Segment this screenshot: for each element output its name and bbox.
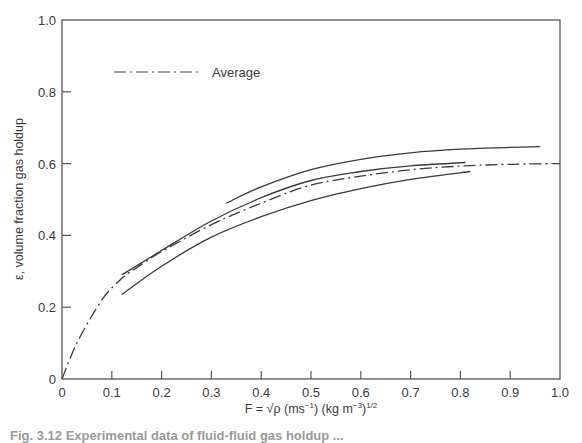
plot-border <box>62 20 560 379</box>
x-tick-label: 0 <box>58 385 65 400</box>
x-tick-label: 0.1 <box>103 385 121 400</box>
x-tick-label: 0.5 <box>302 385 320 400</box>
x-tick-label: 0.4 <box>252 385 270 400</box>
legend: Average <box>114 65 260 80</box>
x-tick-label: 0.7 <box>402 385 420 400</box>
y-axis-title: ε, volume fraction gas holdup <box>12 118 26 280</box>
series-line-curve-1 <box>226 147 540 203</box>
x-axis-ticks: 00.10.20.30.40.50.60.70.80.91.0 <box>58 371 569 400</box>
x-tick-label: 0.3 <box>202 385 220 400</box>
figure-caption: Fig. 3.12 Experimental data of fluid-flu… <box>10 428 344 443</box>
x-axis-title: F = √ρ (ms−1) (kg m−3)1/2 <box>245 401 378 416</box>
y-tick-label: 1.0 <box>38 13 56 28</box>
x-tick-label: 0.8 <box>451 385 469 400</box>
x-tick-label: 0.9 <box>501 385 519 400</box>
x-tick-label: 0.6 <box>352 385 370 400</box>
y-tick-label: 0 <box>49 372 56 387</box>
y-tick-label: 0.6 <box>38 157 56 172</box>
legend-label-average: Average <box>212 65 260 80</box>
y-tick-label: 0.2 <box>38 300 56 315</box>
y-axis-ticks: 00.20.40.60.81.0 <box>38 13 71 387</box>
plot-frame <box>62 20 560 379</box>
x-tick-label: 0.2 <box>153 385 171 400</box>
data-series <box>62 147 560 379</box>
y-tick-label: 0.8 <box>38 85 56 100</box>
x-tick-label: 1.0 <box>551 385 569 400</box>
y-tick-label: 0.4 <box>38 228 56 243</box>
series-line-average <box>62 164 560 379</box>
